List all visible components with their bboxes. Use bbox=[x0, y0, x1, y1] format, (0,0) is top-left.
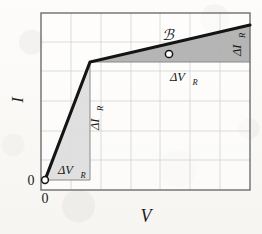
lower-delta-v-text: ΔV bbox=[57, 163, 74, 177]
origin-marker bbox=[42, 177, 49, 184]
upper-delta-v-text: ΔV bbox=[169, 70, 186, 84]
upper-delta-i-subscript: R bbox=[237, 32, 247, 39]
y-axis-origin-tick-label: 0 bbox=[28, 173, 35, 188]
iv-characteristic-figure: ℬ I V 0 0 ΔV R ΔI R ΔV R ΔI R bbox=[0, 0, 262, 234]
point-b-marker bbox=[165, 50, 172, 57]
y-axis-label: I bbox=[8, 96, 27, 104]
lower-delta-i-text: ΔI bbox=[88, 118, 102, 131]
lower-delta-v-subscript: R bbox=[80, 170, 87, 180]
chart-svg: ℬ I V 0 0 ΔV R ΔI R ΔV R ΔI R bbox=[0, 0, 262, 234]
lower-delta-i-subscript: R bbox=[95, 105, 105, 112]
upper-delta-v-subscript: R bbox=[192, 77, 199, 87]
x-axis-label: V bbox=[141, 206, 154, 226]
point-b-label: ℬ bbox=[162, 27, 175, 43]
upper-delta-i-text: ΔI bbox=[230, 44, 244, 57]
x-axis-origin-tick-label: 0 bbox=[42, 191, 49, 206]
